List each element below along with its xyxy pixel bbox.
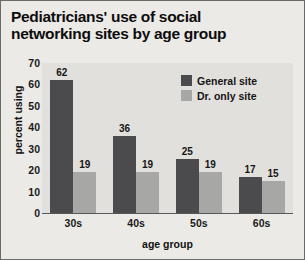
x-axis-category-label: 60s	[230, 217, 293, 229]
bar-value-label: 15	[256, 168, 291, 179]
y-axis-tick: 0	[4, 207, 40, 219]
y-axis-label: percent using	[12, 80, 24, 160]
bar-value-label: 19	[193, 159, 228, 170]
legend-label: General site	[197, 75, 257, 87]
bar-value-label: 62	[44, 67, 79, 78]
legend-swatch-icon	[181, 75, 192, 86]
bar-value-label: 25	[170, 146, 205, 157]
chart-title: Pediatricians' use of social networking …	[11, 8, 261, 42]
legend-item: General site	[181, 74, 257, 87]
legend-swatch-icon	[181, 90, 192, 101]
legend-item: Dr. only site	[181, 89, 257, 102]
legend-label: Dr. only site	[197, 90, 257, 102]
bar-value-label: 19	[67, 159, 102, 170]
bar-30s-general-site	[50, 80, 73, 213]
bar-60s-general-site	[239, 177, 262, 213]
bar-value-label: 19	[130, 159, 165, 170]
bar-40s-general-site	[113, 136, 136, 213]
y-axis-tick: 10	[4, 186, 40, 198]
y-axis-tick: 20	[4, 164, 40, 176]
x-axis-label: age group	[42, 238, 293, 250]
chart-title-line-2: networking sites by age group	[11, 25, 226, 42]
x-axis-category-label: 50s	[168, 217, 231, 229]
bar-60s-dr-only-site	[262, 181, 285, 213]
bar-40s-dr-only-site	[136, 172, 159, 213]
chart-legend: General siteDr. only site	[181, 74, 257, 104]
chart-figure: Pediatricians' use of social networking …	[0, 0, 305, 260]
x-axis-category-label: 30s	[42, 217, 105, 229]
x-axis-line	[42, 213, 293, 214]
bar-value-label: 36	[107, 123, 142, 134]
x-axis-category-label: 40s	[105, 217, 168, 229]
y-axis-tick: 70	[4, 57, 40, 69]
bar-30s-dr-only-site	[73, 172, 96, 213]
bar-50s-dr-only-site	[199, 172, 222, 213]
